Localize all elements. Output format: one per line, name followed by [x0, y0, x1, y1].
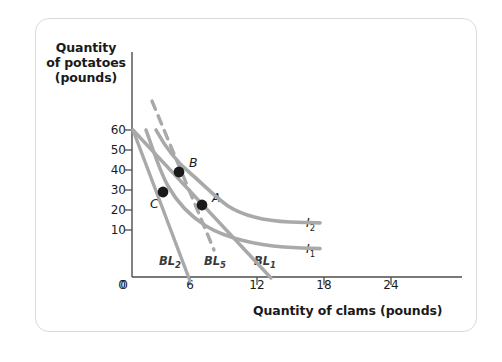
- data-point-b: [174, 167, 185, 178]
- data-point-c: [158, 187, 169, 198]
- x-tick-marks: [190, 277, 391, 285]
- plot-canvas: [0, 0, 502, 362]
- figure-container: Quantity of potatoes (pounds) Quantity o…: [0, 0, 502, 362]
- y-tick-marks: [124, 130, 132, 230]
- data-point-a: [197, 200, 208, 211]
